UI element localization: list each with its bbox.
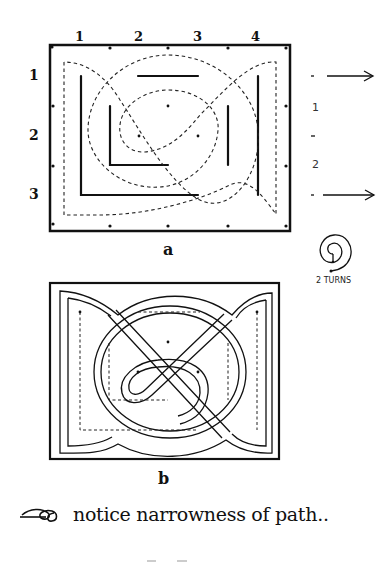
row-label-3: 3 [29, 186, 39, 202]
spiral-turns-label: 2 TURNS [316, 276, 351, 285]
column-label-2: 2 [134, 29, 143, 44]
caption-a: a [163, 240, 173, 259]
side-label-2: 2 [312, 158, 319, 171]
narrowness-note: notice narrowness of path.. [73, 503, 329, 525]
column-label-1: 1 [75, 29, 84, 44]
caption-b: b [158, 469, 169, 488]
column-label-3: 3 [193, 29, 202, 44]
side-label-1: 1 [312, 101, 319, 114]
row-label-1: 1 [29, 67, 39, 83]
column-label-4: 4 [251, 29, 260, 44]
row-label-2: 2 [29, 127, 39, 143]
